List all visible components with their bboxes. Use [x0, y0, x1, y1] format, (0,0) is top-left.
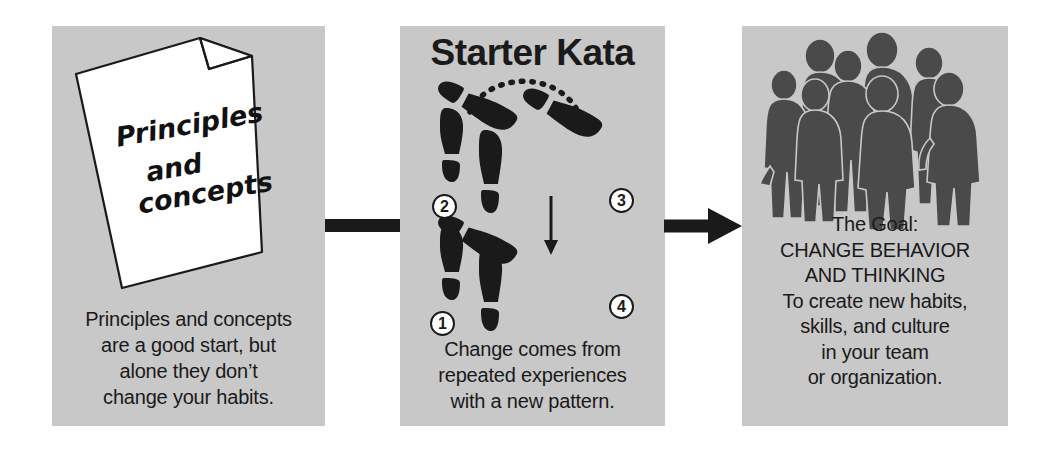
caption-line: skills, and culture: [742, 314, 1008, 340]
caption-line: in your team: [742, 340, 1008, 366]
arrow-right-icon: [664, 204, 744, 248]
caption-line: To create new habits,: [742, 289, 1008, 315]
caption-line: with a new pattern.: [400, 388, 665, 414]
caption-line: or organization.: [742, 365, 1008, 391]
step-number-3: 3: [609, 188, 634, 213]
footprint-right-2: [479, 130, 502, 213]
caption-line: alone they don’t: [52, 358, 325, 384]
people-silhouettes-svg: [742, 26, 1008, 231]
caption-line: CHANGE BEHAVIOR: [742, 238, 1008, 264]
paper-sheet-icon: [52, 26, 325, 316]
people-group-illustration: [742, 26, 1008, 231]
step-number-1: 1: [430, 311, 455, 336]
infographic-canvas: Principles and concepts Principles and c…: [0, 0, 1059, 450]
straight-down-arrow: [544, 196, 558, 255]
caption-line: are a good start, but: [52, 332, 325, 358]
caption-line: change your habits.: [52, 384, 325, 410]
caption-goal: The Goal: CHANGE BEHAVIOR AND THINKING T…: [742, 212, 1008, 391]
caption-principles: Principles and concepts are a good start…: [52, 306, 325, 410]
caption-line: Principles and concepts: [52, 306, 325, 332]
caption-line: AND THINKING: [742, 263, 1008, 289]
connector-bar-left: [325, 219, 401, 232]
footprint-left-2: [440, 108, 463, 182]
caption-line: The Goal:: [742, 212, 1008, 238]
step-number-2: 2: [432, 194, 457, 219]
footprint-left-1: [440, 226, 463, 300]
caption-line: Change comes from: [400, 336, 665, 362]
caption-starter-kata: Change comes from repeated experiences w…: [400, 336, 665, 414]
paper-illustration: Principles and concepts: [52, 26, 325, 316]
caption-line: repeated experiences: [400, 362, 665, 388]
step-number-4: 4: [609, 294, 634, 319]
connector-arrow-right: [664, 204, 744, 248]
